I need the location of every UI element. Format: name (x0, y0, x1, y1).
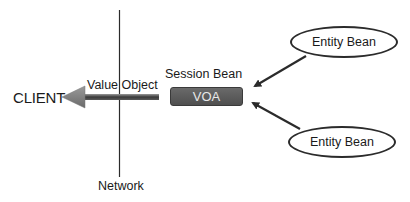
network-label: Network (98, 180, 144, 193)
entity-bean-bottom-arrow (253, 103, 300, 129)
session-bean-label: Session Bean (165, 68, 242, 81)
value-object-arrow-shaft (82, 94, 159, 100)
diagram-canvas: CLIENT Value Object Session Bean VOA Ent… (0, 0, 410, 202)
client-label: CLIENT (13, 90, 65, 105)
voa-box: VOA (170, 87, 243, 106)
value-object-label: Value Object (87, 79, 158, 92)
entity-bean-top-arrow (255, 56, 306, 86)
entity-bean-bottom: Entity Bean (288, 126, 396, 158)
value-object-arrow-head (62, 86, 85, 108)
entity-bean-top: Entity Bean (290, 26, 398, 58)
